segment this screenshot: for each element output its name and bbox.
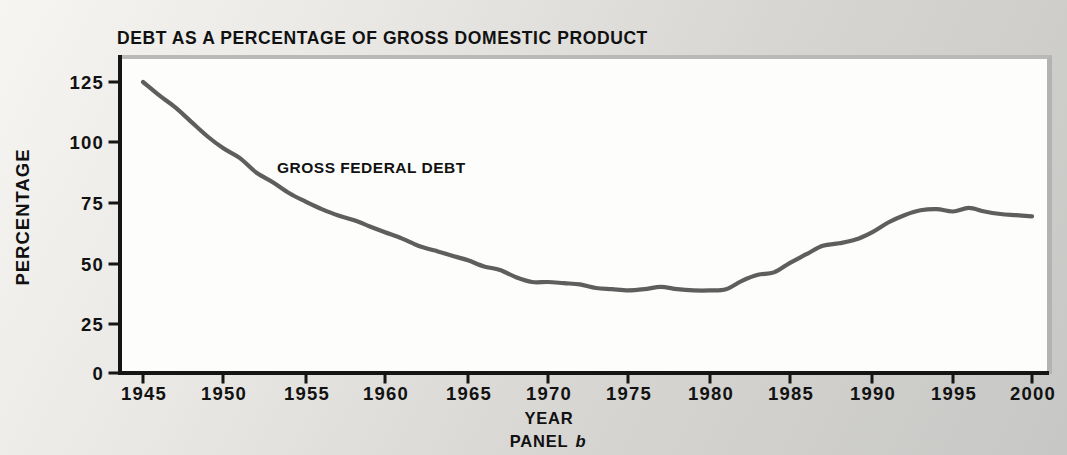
x-tick-label: 1975	[606, 383, 652, 404]
x-tick-label: 1965	[446, 383, 492, 404]
x-tick-label: 1960	[363, 383, 409, 404]
page: 0255075100125194519501955196019651970197…	[0, 0, 1067, 455]
panel-prefix: PANEL	[510, 432, 569, 450]
x-tick-label: 1995	[931, 383, 977, 404]
y-tick-label: 0	[93, 363, 105, 384]
debt-line-chart: 0255075100125194519501955196019651970197…	[0, 0, 1067, 455]
y-axis-title: PERCENTAGE	[12, 148, 34, 285]
debt-curve	[143, 82, 1032, 291]
x-axis-title: YEAR	[524, 409, 573, 428]
y-tick-label: 75	[81, 193, 104, 214]
panel-caption: PANELb	[510, 432, 587, 451]
panel-letter: b	[575, 432, 586, 450]
y-tick-label: 100	[70, 132, 104, 153]
x-tick-label: 1970	[526, 383, 572, 404]
x-tick-label: 1950	[201, 383, 247, 404]
y-tick-label: 125	[70, 72, 104, 93]
series-label: GROSS FEDERAL DEBT	[277, 159, 466, 177]
x-tick-label: 1990	[850, 383, 896, 404]
x-tick-label: 1945	[121, 383, 167, 404]
y-tick-label: 50	[81, 254, 104, 275]
y-tick-label: 25	[81, 314, 104, 335]
chart-title: DEBT AS A PERCENTAGE OF GROSS DOMESTIC P…	[117, 28, 648, 49]
x-tick-label: 1985	[768, 383, 814, 404]
x-tick-label: 1980	[688, 383, 734, 404]
x-tick-label: 2000	[1010, 383, 1056, 404]
x-tick-label: 1955	[284, 383, 330, 404]
